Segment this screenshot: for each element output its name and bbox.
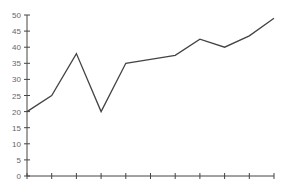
x-axis xyxy=(27,173,274,179)
y-tick-label: 25 xyxy=(12,92,21,101)
y-tick-label: 15 xyxy=(12,124,21,133)
line-chart: 05101520253035404550 xyxy=(0,0,283,190)
y-tick-label: 45 xyxy=(12,27,21,36)
y-tick-label: 20 xyxy=(12,108,21,117)
y-tick-label: 30 xyxy=(12,75,21,84)
y-tick-label: 50 xyxy=(12,11,21,20)
y-tick-label: 10 xyxy=(12,140,21,149)
data-line xyxy=(27,18,274,111)
y-tick-label: 35 xyxy=(12,59,21,68)
y-axis: 05101520253035404550 xyxy=(12,11,30,181)
y-tick-label: 5 xyxy=(17,156,22,165)
y-tick-label: 0 xyxy=(17,172,22,181)
y-tick-label: 40 xyxy=(12,43,21,52)
